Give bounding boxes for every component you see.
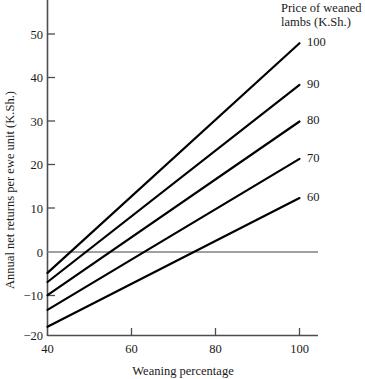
- y-tick-label-10: 10: [31, 202, 44, 216]
- y-tick-label-40: 40: [31, 71, 44, 85]
- series-label-70: 70: [307, 151, 320, 165]
- series-label-60: 60: [307, 190, 320, 204]
- legend-title-line-2: lambs (K.Sh.): [281, 15, 351, 29]
- series-label-90: 90: [307, 77, 320, 91]
- legend-title: Price of weaned lambs (K.Sh.): [281, 1, 362, 29]
- y-tick-label-50: 50: [31, 28, 44, 42]
- x-tick-label-60: 60: [125, 342, 138, 356]
- x-axis-title: Weaning percentage: [132, 364, 234, 378]
- y-axis-title: Annual net returns per ewe unit (K.Sh.): [3, 91, 17, 289]
- x-tick-label-80: 80: [209, 342, 222, 356]
- chart-figure: 50 40 30 20 10 0 −10 −20 40 60 80 100 10…: [0, 0, 365, 379]
- legend-title-line-1: Price of weaned: [281, 1, 362, 15]
- y-tick-label-neg10: −10: [23, 289, 43, 303]
- x-tick-label-40: 40: [41, 342, 54, 356]
- y-tick-label-0: 0: [37, 246, 43, 260]
- chart-svg: 50 40 30 20 10 0 −10 −20 40 60 80 100 10…: [0, 0, 365, 379]
- y-tick-label-neg20: −20: [23, 329, 43, 343]
- series-label-100: 100: [307, 35, 326, 49]
- y-tick-label-20: 20: [31, 158, 44, 172]
- x-tick-label-100: 100: [290, 342, 309, 356]
- series-label-80: 80: [307, 113, 320, 127]
- y-tick-label-30: 30: [31, 115, 44, 129]
